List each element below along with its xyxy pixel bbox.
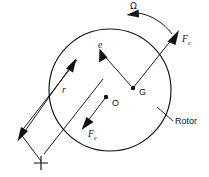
eccentricity-arrowhead-icon <box>99 49 108 63</box>
mass-marker-plus-icon <box>34 156 48 170</box>
eccentric-force-label: F <box>87 129 94 139</box>
geometric-center-dot <box>104 95 108 99</box>
rotor-leader-line <box>157 107 173 121</box>
eccentricity-label: e <box>98 40 102 50</box>
centrifugal-force-label: F <box>181 34 188 44</box>
center-of-gravity-dot <box>131 86 135 90</box>
rotor-circle <box>49 29 171 151</box>
geometric-center-label: O <box>112 98 119 108</box>
centrifugal-force-subscript: c <box>188 40 191 46</box>
rotor-unbalance-diagram: Ω F c F e e r G O Rotor <box>0 0 209 177</box>
rotor-label: Rotor <box>175 116 197 126</box>
parallelogram-upper-side <box>20 60 77 133</box>
center-of-gravity-label: G <box>139 87 146 97</box>
rotation-arc <box>137 13 172 34</box>
radius-label: r <box>62 85 66 95</box>
eccentric-force-subscript: e <box>94 135 97 141</box>
diagram-canvas: Ω F c F e e r G O Rotor <box>0 0 209 177</box>
parallelogram-left-end <box>20 133 41 161</box>
omega-label: Ω <box>130 1 137 11</box>
